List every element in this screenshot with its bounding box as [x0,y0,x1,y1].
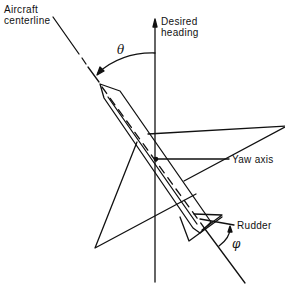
fuselage-centerline-dashed [102,87,205,229]
phi-arrowhead [228,226,232,232]
centerline-dash [82,58,86,64]
heading-arrowhead [153,19,157,27]
label-desired-heading: Desired heading [161,16,199,38]
theta-arc [98,53,155,73]
centerline-upper [53,17,79,54]
fuselage-inner [108,97,197,224]
yaw-axis-dot [154,157,159,162]
phi-symbol: φ [232,237,240,251]
label-aircraft-centerline: Aircraft centerline [4,4,50,26]
theta-symbol: θ [117,43,124,57]
label-yaw-axis: Yaw axis [232,154,274,165]
aircraft-yaw-diagram [0,0,285,294]
label-rudder: Rudder [237,220,272,231]
tail-fin-left [180,217,222,241]
